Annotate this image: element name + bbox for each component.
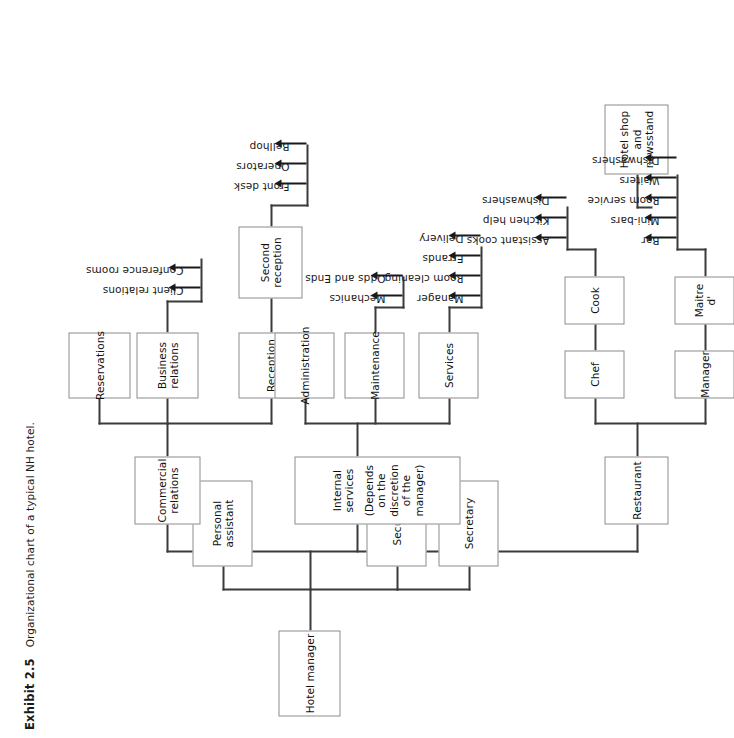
box-maintenance-label: Maintenance [368,331,381,400]
line-to-reception [270,396,272,424]
box-cook-label: Cook [588,287,601,314]
exhibit-title: Organizational chart of a typical NH hot… [24,422,36,647]
line-internal-spine [304,422,450,424]
box-maitre-d[interactable]: Maitre d' [674,276,734,324]
box-manager-label: Manager [698,351,711,398]
line-internal-out [356,422,358,456]
line-commercial-out [166,422,168,456]
leaf-arrow [650,236,676,238]
box-manager[interactable]: Manager [674,350,734,398]
box-services[interactable]: Services [418,332,478,398]
box-business-relations[interactable]: Business relations [136,332,198,398]
leaf-arrow [650,216,676,218]
line-restaurant-spine [594,422,706,424]
line-maintenance-out [374,306,376,332]
box-secretary-label: Secretary [462,497,475,548]
box-services-label: Services [442,342,455,387]
line-restaurant-out [636,422,638,456]
box-commercial-relations[interactable]: Commercial relations [134,456,200,524]
box-restaurant[interactable]: Restaurant [604,456,668,524]
line-to-internal [356,522,358,552]
line-to-commercial [166,522,168,552]
leaf-arrow [650,196,676,198]
box-chef[interactable]: Chef [564,350,624,398]
line-to-reservations [98,396,100,424]
line-to-secretary [468,564,470,590]
exhibit-caption: Exhibit 2.5 Organizational chart of a ty… [0,0,56,738]
line-chef-cook [594,322,596,350]
line-to-services [448,396,450,424]
leaf-arrow [454,294,480,296]
box-internal-services-line2: (Depends on the discretion of the manage… [362,459,425,521]
leaf-arrow [650,156,676,158]
line-sec2-spine [396,588,470,590]
box-personal-assistant-label: Personal assistant [210,483,235,563]
line-to-maintenance [374,396,376,424]
line-cook-out [594,248,596,276]
box-hotel-manager-label: Hotel manager [303,633,316,713]
box-restaurant-label: Restaurant [630,461,643,519]
line-maitre-out [704,248,706,276]
line-services-out [448,306,450,332]
leaf-arrow [454,274,480,276]
box-maitre-d-label: Maitre d' [692,279,717,321]
line-to-pa [222,564,224,590]
exhibit-number: Exhibit 2.5 [23,658,37,730]
box-cook[interactable]: Cook [564,276,624,324]
box-reservations-label: Reservations [93,331,106,400]
box-internal-services-line1: Internal services [330,459,355,521]
line-to-business [166,396,168,424]
box-reservations[interactable]: Reservations [68,332,130,398]
line-to-manager [704,396,706,424]
box-maintenance[interactable]: Maintenance [344,332,404,398]
line-to-security [396,564,398,590]
org-chart-canvas: Hotel manager Personal assistant Securit… [56,0,565,738]
box-hotel-manager[interactable]: Hotel manager [278,630,340,716]
box-administration[interactable]: Administration [274,332,334,398]
line-hm-main [309,550,311,590]
box-administration-label: Administration [298,326,311,404]
line-manager-maitre [704,322,706,350]
leaf-list-maitre-d: Bar Mini-bars Room service Waiters Dishw… [56,150,684,250]
line-to-chef [594,396,596,424]
box-business-relations-label: Business relations [155,335,180,395]
line-to-restaurant [636,522,638,552]
leaf-arrow [454,254,480,256]
box-commercial-relations-label: Commercial relations [155,458,180,522]
line-commercial-spine [98,422,272,424]
line-hm-out [309,588,311,630]
leaf-arrow [280,142,306,144]
box-chef-label: Chef [588,362,601,387]
box-internal-services[interactable]: Internal services (Depends on the discre… [294,456,460,524]
leaf-arrow [650,176,676,178]
box-personal-assistant[interactable]: Personal assistant [192,480,252,566]
org-chart: Hotel manager Personal assistant Securit… [56,0,565,738]
